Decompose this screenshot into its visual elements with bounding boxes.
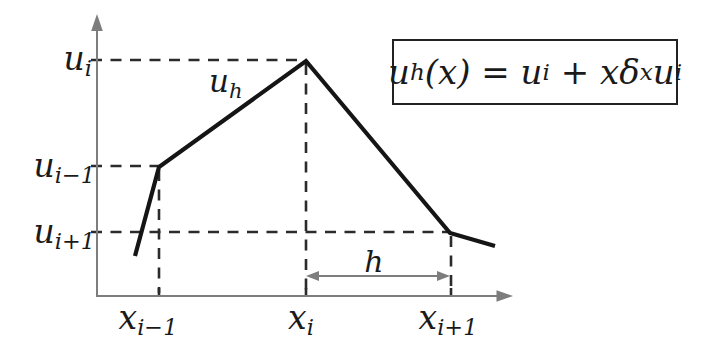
formula-part-x-equals: (x) = u [425, 52, 543, 92]
y-label-uip1: ui+1 [8, 215, 95, 248]
h-arrow-label: h [344, 247, 404, 277]
h-arrow-label-text: h [364, 244, 383, 279]
formula-part-plus-x: + x [550, 52, 619, 92]
y-axis-arrowhead [91, 14, 103, 31]
curve-label-uh-base: u [209, 63, 229, 99]
figure-canvas: ui ui−1 ui+1 xi−1 xi xi+1 uh h uh(x) = u… [0, 0, 715, 348]
curve-label-uh: uh [209, 66, 243, 97]
x-label-xim1-sub: i−1 [137, 314, 177, 340]
h-dimension-arrowhead-left [306, 271, 319, 281]
x-label-xip1: xi+1 [398, 301, 498, 334]
curve-label-uh-sub: h [229, 78, 243, 103]
x-label-xim1: xi−1 [98, 301, 198, 334]
formula-part-uh-base: u [388, 52, 410, 92]
y-label-uim1-base: u [33, 146, 54, 185]
x-label-xi-base: x [288, 298, 307, 337]
y-label-ui: ui [30, 42, 92, 75]
y-label-uim1: ui−1 [8, 149, 95, 182]
x-label-xi-sub: i [307, 314, 314, 340]
h-dimension-arrowhead-right [437, 271, 450, 281]
y-label-uip1-sub: i+1 [55, 228, 95, 254]
y-label-uim1-sub: i−1 [55, 162, 95, 188]
x-label-xim1-base: x [119, 298, 138, 337]
formula-box: uh(x) = ui + xδxui [392, 39, 678, 105]
x-label-xip1-base: x [419, 298, 438, 337]
y-label-uip1-base: u [33, 212, 54, 251]
y-label-ui-sub: i [85, 55, 92, 81]
y-label-ui-base: u [64, 39, 85, 78]
x-axis-arrowhead [497, 290, 514, 302]
x-label-xip1-sub: i+1 [437, 314, 477, 340]
formula-part-delta: δ [619, 52, 639, 92]
formula-part-u2-base: u [653, 52, 675, 92]
x-axis-ticks [159, 288, 451, 296]
x-label-xi: xi [256, 301, 346, 334]
